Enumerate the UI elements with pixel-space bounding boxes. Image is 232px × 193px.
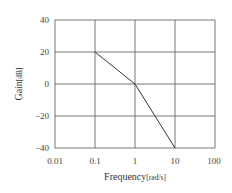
x-axis-label: Frequency[rad/s] <box>104 171 166 182</box>
svg-text:100: 100 <box>207 156 221 166</box>
svg-text:20: 20 <box>40 47 50 57</box>
svg-text:40: 40 <box>40 15 50 25</box>
svg-text:0.01: 0.01 <box>47 156 63 166</box>
y-tick-labels: 40 20 0 −20 −40 <box>35 15 50 153</box>
svg-text:−40: −40 <box>35 143 50 153</box>
svg-text:0: 0 <box>45 79 50 89</box>
svg-text:10: 10 <box>171 156 181 166</box>
svg-text:−20: −20 <box>35 111 50 121</box>
x-tick-labels: 0.01 0.1 1 10 100 <box>47 156 221 166</box>
svg-text:1: 1 <box>133 156 138 166</box>
y-axis-label: Gain[dB] <box>13 67 24 100</box>
svg-text:0.1: 0.1 <box>89 156 100 166</box>
bode-gain-chart: 40 20 0 −20 −40 0.01 0.1 1 10 100 Freque… <box>0 0 232 193</box>
